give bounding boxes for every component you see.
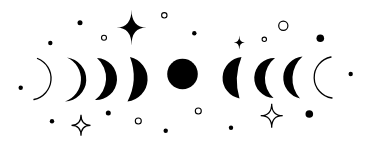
ring-top-center	[162, 13, 167, 18]
ring-bottom-center	[195, 108, 201, 114]
ring-top-right-large	[279, 21, 288, 30]
moon-phases-svg	[0, 0, 371, 144]
moon-1-thin-crescent-outline	[34, 59, 51, 100]
moon-8-crescent	[283, 57, 302, 99]
dot-top-center	[192, 31, 196, 35]
dot-middle-left	[19, 86, 23, 90]
dot-bottom-left-high	[106, 111, 111, 116]
ring-top-left	[102, 35, 107, 40]
moon-phases-illustration	[0, 0, 371, 144]
dot-top-left-low	[48, 41, 52, 45]
dot-bottom-left	[50, 119, 54, 123]
dot-top-right-large	[317, 35, 325, 43]
sparkle-outline-bottom-left	[72, 115, 91, 136]
moon-5-full-moon	[167, 59, 198, 90]
moon-6-thick-crescent	[223, 57, 242, 99]
moon-4-thick-crescent	[128, 57, 148, 102]
sparkle-small-top-right	[234, 36, 245, 50]
sparkle-outline-bottom-right	[261, 104, 283, 128]
moon-2-crescent	[65, 58, 86, 102]
ring-top-right-small	[262, 37, 266, 41]
moon-7-crescent	[254, 58, 275, 98]
dot-bottom-center	[164, 129, 168, 133]
dot-middle-right	[349, 72, 353, 76]
dot-bottom-center-right	[229, 126, 233, 130]
sparkle-large-top	[117, 10, 147, 46]
ring-bottom-left	[135, 118, 141, 124]
moon-3-crescent	[95, 58, 117, 100]
moon-9-thin-crescent-outline	[314, 57, 332, 98]
dot-top-left-high	[78, 20, 83, 25]
dot-bottom-right-large	[306, 110, 314, 118]
